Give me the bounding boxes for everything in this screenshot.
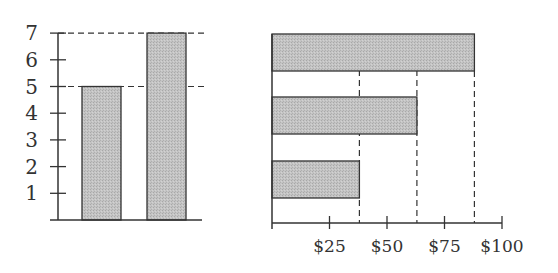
x-tick-label: $100: [480, 236, 523, 256]
y-tick-label: 5: [25, 75, 38, 99]
horizontal-bar-chart: $25$50$75$100: [272, 34, 524, 256]
bar-B: [147, 33, 186, 220]
bar-A: [82, 87, 121, 221]
y-tick-label: 1: [25, 181, 38, 205]
x-tick-label: $25: [313, 236, 345, 256]
bar-bottom: [272, 161, 359, 198]
bar-top: [272, 34, 474, 71]
y-tick-label: 4: [25, 101, 38, 125]
y-tick-label: 7: [25, 21, 38, 45]
y-tick-label: 3: [25, 128, 38, 152]
x-tick-label: $50: [371, 236, 403, 256]
chart-canvas: 1234567 $25$50$75$100: [0, 0, 558, 273]
bar-middle: [272, 97, 417, 134]
y-tick-label: 2: [25, 155, 38, 179]
vertical-bar-chart: 1234567: [25, 21, 204, 220]
x-tick-label: $75: [428, 236, 460, 256]
y-tick-label: 6: [25, 48, 38, 72]
